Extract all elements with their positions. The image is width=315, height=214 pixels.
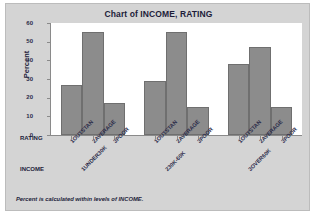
bar <box>61 85 83 135</box>
y-axis-title: Percent <box>22 40 31 90</box>
income-tick-label: 1UNDER30K <box>80 144 108 172</box>
y-tick-label: 10 <box>11 113 33 119</box>
bar <box>144 81 166 135</box>
y-tick-label: 30 <box>11 76 33 82</box>
y-tick-mark <box>47 135 50 136</box>
rating-axis-label: RATING <box>20 135 43 141</box>
income-axis-label: INCOME <box>20 166 44 172</box>
income-tick-label: 3OVER60K <box>247 147 272 172</box>
chart-footnote: Percent is calculated within levels of I… <box>16 196 143 202</box>
y-tick-mark <box>47 42 50 43</box>
bar <box>166 32 188 135</box>
income-tick-label: 230K-60K <box>164 150 186 172</box>
y-tick-label: 20 <box>11 94 33 100</box>
page-title: Chart of INCOME, RATING <box>6 9 311 19</box>
y-axis-line <box>50 23 51 136</box>
y-tick-label: 60 <box>11 20 33 26</box>
y-tick-label: 40 <box>11 57 33 63</box>
chart-panel: Chart of INCOME, RATING Percent 01020304… <box>5 3 310 211</box>
bar <box>82 32 104 135</box>
y-tick-label: 50 <box>11 38 33 44</box>
y-tick-mark <box>47 79 50 80</box>
y-tick-mark <box>47 116 50 117</box>
y-tick-mark <box>47 60 50 61</box>
y-tick-mark <box>47 23 50 24</box>
bar <box>228 64 250 135</box>
chart-screenshot: Chart of INCOME, RATING Percent 01020304… <box>0 0 315 214</box>
y-tick-mark <box>47 98 50 99</box>
